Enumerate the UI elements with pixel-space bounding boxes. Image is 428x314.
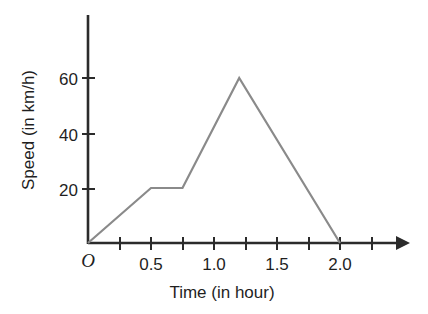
x-axis-arrow-icon xyxy=(396,236,410,250)
origin-label: O xyxy=(81,250,95,271)
y-tick-label-60: 60 xyxy=(59,70,78,89)
y-tick-label-40: 40 xyxy=(59,126,78,145)
x-tick-label-0-5: 0.5 xyxy=(139,255,163,274)
x-tick-label-1-5: 1.5 xyxy=(265,255,289,274)
x-tick-label-2-0: 2.0 xyxy=(328,255,352,274)
x-tick-label-1-0: 1.0 xyxy=(202,255,226,274)
x-axis-title: Time (in hour) xyxy=(169,283,274,302)
speed-series-line xyxy=(88,78,340,243)
chart-canvas: 60 40 20 0.5 1.0 1.5 2.0 O Time (in hour… xyxy=(0,0,428,314)
speed-time-chart: 60 40 20 0.5 1.0 1.5 2.0 O Time (in hour… xyxy=(0,0,428,314)
y-axis-title: Speed (in km/h) xyxy=(19,70,38,190)
y-tick-label-20: 20 xyxy=(59,181,78,200)
